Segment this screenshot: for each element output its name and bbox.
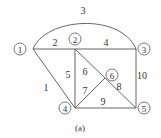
edge-3-arc <box>33 23 136 49</box>
edge-label-3: 3 <box>81 5 86 16</box>
edge-label-4: 4 <box>104 37 109 48</box>
edge-label-6: 6 <box>83 66 88 77</box>
node-4-label: 4 <box>63 104 68 114</box>
edge-label-9: 9 <box>101 96 106 107</box>
node-2-label: 2 <box>73 35 78 45</box>
node-1-label: 1 <box>18 45 23 55</box>
caption: (a) <box>75 123 85 133</box>
node-5-label: 5 <box>142 104 147 114</box>
edge-label-1: 1 <box>44 82 49 93</box>
edge-label-2: 2 <box>53 37 58 48</box>
edge-label-7: 7 <box>83 85 88 96</box>
node-6-label: 6 <box>110 71 115 81</box>
node-3-label: 3 <box>142 45 147 55</box>
edge-label-5: 5 <box>66 69 71 80</box>
edge-label-10: 10 <box>137 70 147 81</box>
edge-label-8: 8 <box>117 81 122 92</box>
graph-diagram: 1 2 3 4 5 6 1 2 3 4 5 6 7 8 9 10 (a) <box>0 0 161 138</box>
